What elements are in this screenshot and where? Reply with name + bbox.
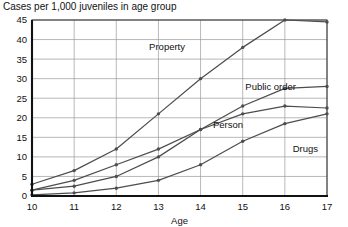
- data-point: [199, 77, 202, 80]
- data-point: [72, 179, 75, 182]
- y-tick-label: 25: [16, 93, 27, 104]
- data-point: [283, 104, 286, 107]
- data-point: [72, 191, 75, 194]
- x-tick-label: 17: [322, 201, 333, 212]
- y-tick-label: 20: [16, 112, 27, 123]
- chart-container: Cases per 1,000 juveniles in age group 0…: [0, 0, 348, 227]
- y-tick-label: 45: [16, 14, 27, 25]
- x-tick-label: 16: [280, 201, 291, 212]
- data-point: [72, 169, 75, 172]
- data-point: [283, 18, 286, 21]
- y-axis-tick-labels: 051015202530354045: [16, 14, 27, 201]
- x-tick-label: 14: [195, 201, 206, 212]
- y-tick-label: 0: [22, 190, 27, 201]
- line-chart-plot: 051015202530354045 1011121314151617 Age …: [0, 0, 348, 227]
- x-tick-label: 13: [153, 201, 164, 212]
- series-line-drugs: [32, 114, 327, 195]
- data-point: [157, 155, 160, 158]
- vertical-gridlines: [74, 20, 327, 196]
- data-point: [325, 85, 328, 88]
- data-point: [157, 112, 160, 115]
- x-tick-label: 11: [69, 201, 79, 212]
- x-axis-tick-labels: 1011121314151617: [27, 201, 333, 212]
- data-point: [72, 185, 75, 188]
- data-point: [241, 112, 244, 115]
- x-tick-label: 10: [27, 201, 38, 212]
- data-point: [325, 112, 328, 115]
- data-point: [115, 175, 118, 178]
- series-label-drugs: Drugs: [293, 143, 319, 154]
- data-point: [241, 46, 244, 49]
- data-point: [199, 163, 202, 166]
- series-label-public-order: Public order: [245, 81, 296, 92]
- y-tick-label: 10: [16, 151, 27, 162]
- data-point: [199, 128, 202, 131]
- data-point: [157, 147, 160, 150]
- data-point: [283, 122, 286, 125]
- y-tick-label: 35: [16, 54, 27, 65]
- series-line-person: [32, 106, 327, 190]
- data-point: [325, 106, 328, 109]
- data-point: [115, 147, 118, 150]
- data-point: [241, 104, 244, 107]
- y-tick-label: 5: [22, 171, 27, 182]
- y-tick-label: 30: [16, 73, 27, 84]
- series-label-person: Person: [213, 119, 243, 130]
- series-line-public-order: [32, 86, 327, 190]
- y-tick-label: 40: [16, 34, 27, 45]
- series-label-property: Property: [149, 41, 185, 52]
- data-point: [115, 163, 118, 166]
- data-point: [157, 179, 160, 182]
- data-point: [115, 186, 118, 189]
- data-point: [241, 140, 244, 143]
- data-point: [325, 20, 328, 23]
- y-tick-label: 15: [16, 132, 27, 143]
- x-tick-label: 12: [111, 201, 122, 212]
- x-axis-label: Age: [171, 215, 188, 226]
- x-tick-label: 15: [237, 201, 248, 212]
